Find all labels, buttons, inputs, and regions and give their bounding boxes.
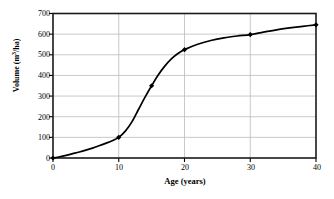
x-tick-label-30: 30 [239,164,263,172]
y-axis-label: Volume (m3/ha) [11,15,22,115]
x-tick-label-40: 40 [305,164,329,172]
y-tick-label-300: 300 [24,93,50,101]
data-point-marker [248,32,253,37]
data-point-marker [313,22,318,27]
x-tick-label-10: 10 [107,164,131,172]
data-point-marker [50,155,55,160]
y-tick-label-200: 200 [24,114,50,122]
x-tick-label-0: 0 [41,164,65,172]
x-tick-label-20: 20 [173,164,197,172]
axis-ticks [49,14,316,163]
y-axis-label-pre: Volume (m [12,55,21,92]
y-tick-label-400: 400 [24,72,50,80]
gridlines [53,14,316,159]
chart-figure: Volume (m3/ha) Age (years) 700 600 500 4… [0,0,334,199]
y-tick-label-0: 0 [24,155,50,163]
y-axis-label-post: /ha) [12,39,21,52]
y-tick-label-600: 600 [24,31,50,39]
y-tick-label-100: 100 [24,134,50,142]
y-tick-label-500: 500 [24,51,50,59]
y-tick-label-700: 700 [24,10,50,18]
x-axis-label: Age (years) [53,176,317,186]
